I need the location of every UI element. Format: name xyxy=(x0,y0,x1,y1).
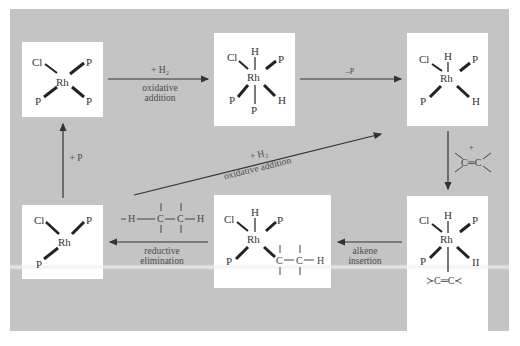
ethane-product: H C C H xyxy=(121,203,204,233)
atom-h: H xyxy=(444,209,452,221)
atom-c: C xyxy=(177,213,184,224)
complex-5: H Cl P Rh P C C H xyxy=(224,206,324,275)
atom-h: H xyxy=(251,45,259,57)
atom-rh: Rh xyxy=(247,233,260,245)
atom-h: H xyxy=(197,213,204,224)
atom-p: P xyxy=(35,95,41,107)
atom-rh: Rh xyxy=(440,233,453,245)
atom-h: II xyxy=(472,256,480,268)
step-label-elimination: elimination xyxy=(130,256,194,267)
atom-p: P xyxy=(278,53,284,65)
atom-h: H xyxy=(278,94,286,106)
diagram-drawing: Cl P Rh P P H Cl P Rh P H P H Cl P H Rh … xyxy=(0,0,520,346)
atom-p: P xyxy=(277,214,283,226)
atom-p: P xyxy=(472,214,478,226)
atom-p: P xyxy=(86,56,92,68)
atom-p: P xyxy=(86,95,92,107)
atom-p: P xyxy=(420,95,426,107)
step-label-h2: + H₂ xyxy=(140,65,180,76)
atom-cl: Cl xyxy=(227,51,237,63)
atom-rh: Rh xyxy=(440,72,453,84)
atom-cl: Cl xyxy=(419,53,429,65)
atom-c: C xyxy=(157,213,164,224)
atom-rh: Rh xyxy=(247,71,260,83)
svg-text:+: + xyxy=(469,143,474,152)
atom-cl: Cl xyxy=(34,214,44,226)
atom-p: P xyxy=(472,53,478,65)
complex-3: H Cl P H Rh P H xyxy=(419,50,480,107)
atom-h: H xyxy=(472,95,480,107)
atom-rh: Rh xyxy=(58,236,71,248)
atom-h: H xyxy=(444,50,452,62)
atom-cl: Cl xyxy=(224,213,234,225)
step-label-minus-p: –P xyxy=(335,66,365,77)
atom-c: C xyxy=(276,255,283,266)
atom-rh: Rh xyxy=(56,76,69,88)
atom-cl: Cl xyxy=(419,214,429,226)
atom-cl: Cl xyxy=(32,56,42,68)
atom-p: P xyxy=(36,258,42,270)
svg-text:C═C: C═C xyxy=(461,157,482,168)
step-label-insertion: insertion xyxy=(340,256,390,267)
complex-4: H Cl P Rh P II ≻C═C≺ xyxy=(419,209,480,286)
atom-h: H xyxy=(251,206,259,218)
atom-h: H xyxy=(128,213,135,224)
atom-p: P xyxy=(86,214,92,226)
atom-p: P xyxy=(226,255,232,267)
complex-2: H Cl P Rh P H P xyxy=(227,45,286,116)
complex-6: Cl P Rh P xyxy=(34,214,92,270)
alkene-reagent: + C═C xyxy=(455,143,491,172)
atom-p: P xyxy=(251,104,257,116)
atom-c: C xyxy=(296,255,303,266)
complex-1: Cl P Rh P P xyxy=(32,56,92,107)
svg-text:+ H₂: + H₂ xyxy=(249,148,269,162)
atom-p: P xyxy=(420,255,426,267)
step-label-plus-p: + P xyxy=(66,153,86,164)
step-label-addition: addition xyxy=(128,93,192,104)
atom-h: H xyxy=(317,255,324,266)
diagonal-label: + H₂ oxidative addition xyxy=(220,143,293,182)
bound-alkene: ≻C═C≺ xyxy=(426,275,462,286)
atom-p: P xyxy=(229,94,235,106)
